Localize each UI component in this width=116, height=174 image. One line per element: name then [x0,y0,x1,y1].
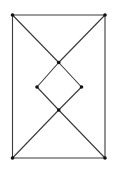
edge-v3-v4 [37,63,59,88]
edge-v5-v6 [59,87,82,110]
vertex-v3 [57,61,61,65]
edge-v1-v3 [13,15,59,63]
edge-v4-v6 [37,87,59,110]
vertex-v4 [35,85,39,89]
edge-v3-v5 [59,63,82,88]
vertex-v5 [80,85,84,89]
vertex-v1 [11,13,15,17]
vertex-v6 [57,108,61,112]
edge-v2-v3 [59,15,105,63]
edge-v6-v8 [59,110,105,158]
vertices-group [11,13,107,160]
vertex-v7 [11,156,15,160]
vertex-v2 [103,13,107,17]
vertex-v8 [103,156,107,160]
edges-group [13,15,106,158]
graph-diagram [0,0,116,174]
edge-v6-v7 [13,110,59,158]
